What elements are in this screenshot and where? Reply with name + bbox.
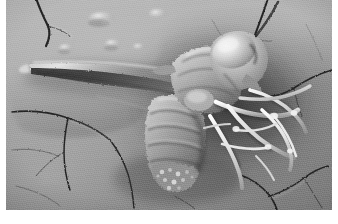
plate-vignette xyxy=(6,0,332,210)
frame-margin-right xyxy=(332,0,338,224)
micrograph-plate xyxy=(6,0,332,210)
frame-margin-left xyxy=(0,0,6,224)
figure-caption xyxy=(6,210,332,224)
sem-figure xyxy=(0,0,338,224)
